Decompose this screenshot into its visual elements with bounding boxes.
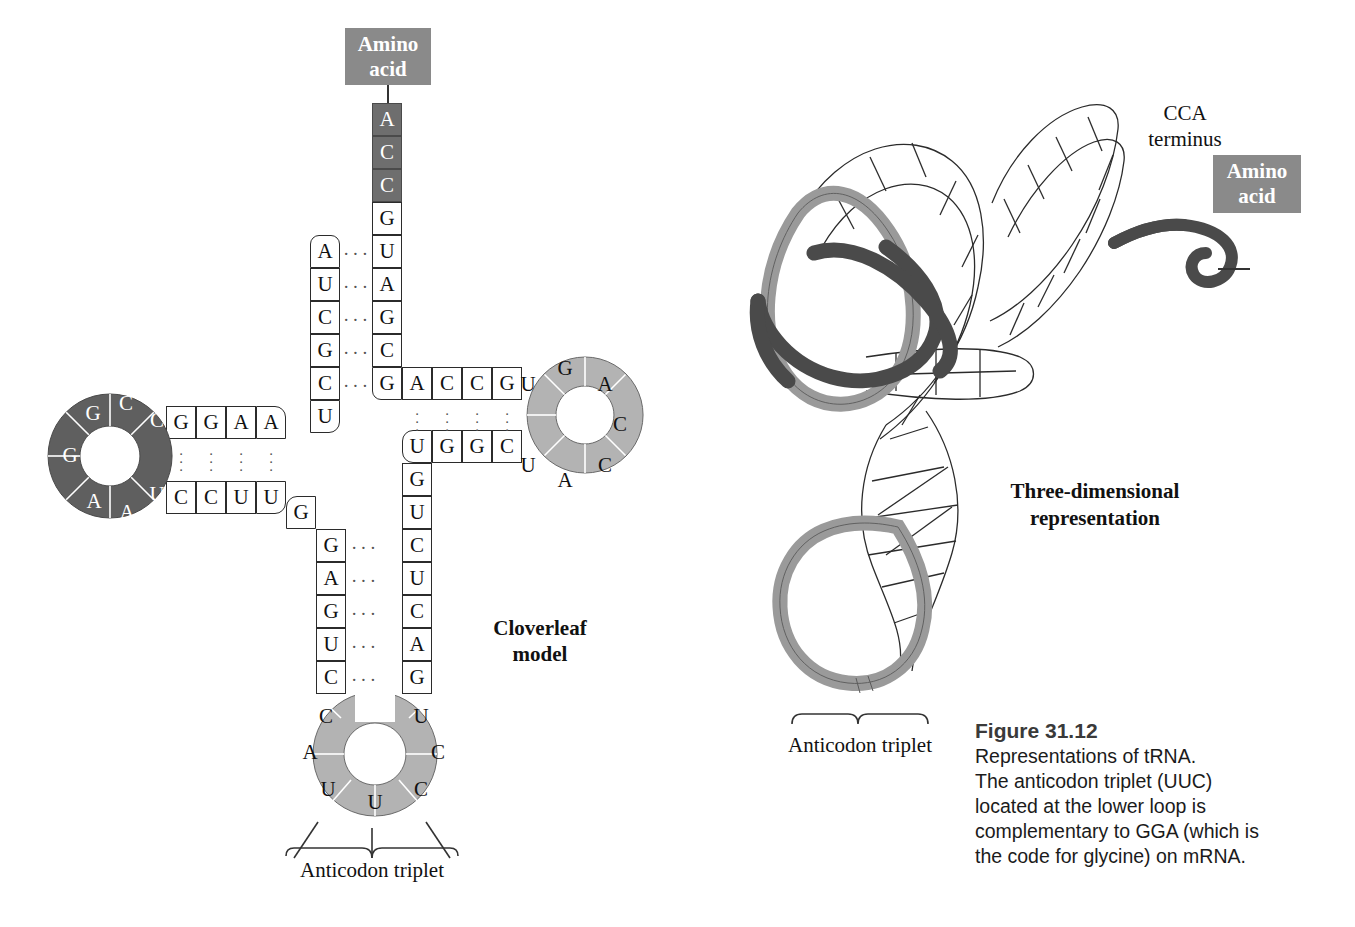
acceptor-helix-3d (990, 105, 1124, 347)
anticodon-loop-ring (293, 686, 457, 822)
hbond-tstem-2: ... (474, 406, 480, 430)
nt-acstem-left-1: A (316, 562, 346, 595)
nt-acstem-right-0: C (402, 529, 432, 562)
hbond-acceptor-0: ··· (343, 244, 371, 263)
hbond-acceptor-3: ··· (343, 343, 371, 362)
amino-acid-box-3d: Amino acid (1213, 155, 1301, 213)
nt-acstem-left-3: U (316, 628, 346, 661)
nt-tstem-bot-1: G (432, 430, 462, 463)
nt-tstem-top-2: C (462, 367, 492, 400)
nt-dstem-bot-2: U (226, 481, 256, 514)
cloverleaf-title-line2: model (460, 641, 620, 667)
cca-terminus-label-line1: CCA (1130, 100, 1240, 126)
hbond-tstem-3: ... (504, 406, 510, 430)
hbond-acstem-1: ··· (351, 571, 379, 590)
nt-tstem-bot-0: U (402, 430, 432, 463)
nt-acceptor3-1: C (372, 136, 402, 169)
nt-dstem-top-2: A (226, 406, 256, 439)
amino-acid-label-3d-line2: acid (1238, 184, 1275, 209)
nt-acceptor3-8: G (372, 367, 402, 400)
hbond-acstem-2: ··· (351, 604, 379, 623)
caption-line-1: The anticodon triplet (UUC) (975, 770, 1212, 792)
nt-acstem-left-0: G (316, 529, 346, 562)
caption-line-2: located at the lower loop is (975, 795, 1206, 817)
anticodon-loop-ribbon-3d (780, 523, 925, 683)
caption-line-3: complementary to GGA (which is (975, 820, 1259, 842)
figure-canvas: Amino acid A C C G U A G C G A U C G C U… (0, 0, 1355, 927)
three-d-title-line1: Three-dimensional (985, 478, 1205, 505)
amino-acid-box-cloverleaf: Amino acid (345, 28, 431, 85)
amino-acid-label-line2: acid (369, 57, 406, 82)
nt-dstem-bot-3: U (256, 481, 286, 514)
nt-acceptor3-3: G (372, 202, 402, 235)
nt-acceptor5-1: U (310, 268, 340, 301)
nt-tstem-top-0: A (402, 367, 432, 400)
nt-dstem-bot-1: C (196, 481, 226, 514)
nt-tstem-top-3: G (492, 367, 522, 400)
nt-acceptor3-2: C (372, 169, 402, 202)
t-loop-ring (520, 350, 650, 480)
d-loop-ring (40, 386, 180, 526)
anticodon-bracket-cloverleaf (282, 806, 462, 858)
nt-acceptor3-5: A (372, 268, 402, 301)
nt-tstem-bot-3: C (492, 430, 522, 463)
nt-acceptor5-3: G (310, 334, 340, 367)
nt-acceptor5-2: C (310, 301, 340, 334)
caption-line-4: the code for glycine) on mRNA. (975, 845, 1246, 867)
nt-acceptor3-7: C (372, 334, 402, 367)
nt-acceptor5-0: A (310, 235, 340, 268)
anticodon-bracket-3d (790, 700, 930, 730)
amino-acid-label-3d-line1: Amino (1227, 159, 1288, 184)
hbond-dstem-2: ... (238, 446, 244, 470)
cloverleaf-title-line1: Cloverleaf (460, 615, 620, 641)
nt-acceptor5-5: U (310, 400, 340, 433)
hbond-dstem-3: ... (268, 446, 274, 470)
nt-variable-1: U (402, 496, 432, 529)
hbond-acceptor-1: ··· (343, 277, 371, 296)
nt-variable-2: G (286, 496, 316, 529)
nt-dstem-top-1: G (196, 406, 226, 439)
nt-dstem-top-3: A (256, 406, 286, 439)
hbond-acstem-0: ··· (351, 538, 379, 557)
nt-acceptor5-4: C (310, 367, 340, 400)
hbond-acceptor-4: ··· (343, 376, 371, 395)
hbond-tstem-1: ... (444, 406, 450, 430)
nt-acstem-right-3: A (402, 628, 432, 661)
figure-number: Figure 31.12 (975, 718, 1315, 743)
cca-terminus-label-line2: terminus (1120, 126, 1250, 152)
nt-tstem-top-1: C (432, 367, 462, 400)
nt-variable-0: G (402, 463, 432, 496)
nt-acstem-right-1: U (402, 562, 432, 595)
hbond-tstem-0: ... (414, 406, 420, 430)
nt-acceptor3-0: A (372, 103, 402, 136)
amino-acid-connector-line (387, 85, 389, 103)
hbond-dstem-1: ... (208, 446, 214, 470)
nt-acceptor3-4: U (372, 235, 402, 268)
nt-acceptor3-6: G (372, 301, 402, 334)
cca-tail-3d (1114, 225, 1232, 282)
nt-acstem-right-2: C (402, 595, 432, 628)
figure-caption: Figure 31.12 Representations of tRNA. Th… (975, 718, 1315, 869)
caption-line-0: Representations of tRNA. (975, 745, 1196, 767)
three-d-title-line2: representation (985, 505, 1205, 532)
trna-3d-ribbon (690, 95, 1250, 735)
hbond-acceptor-2: ··· (343, 310, 371, 329)
hbond-acstem-3: ··· (351, 637, 379, 656)
amino-acid-label-line1: Amino (358, 32, 419, 57)
anticodon-bracket-label-3d: Anticodon triplet (770, 733, 950, 758)
anticodon-bracket-label-cloverleaf: Anticodon triplet (272, 858, 472, 883)
nt-acstem-left-2: G (316, 595, 346, 628)
nt-tstem-bot-2: G (462, 430, 492, 463)
